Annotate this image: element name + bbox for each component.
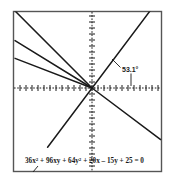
- figure-frame: [14, 12, 162, 172]
- conic-graph-figure: 53.1° 36x2 + 96xy + 64y2 + 20x – 15y + 2…: [0, 0, 174, 182]
- equation-label: 36x2 + 96xy + 64y2 + 20x – 15y + 25 = 0: [25, 157, 144, 166]
- graph-svg: 53.1° 36x2 + 96xy + 64y2 + 20x – 15y + 2…: [0, 0, 174, 182]
- angle-label: 53.1°: [122, 66, 139, 73]
